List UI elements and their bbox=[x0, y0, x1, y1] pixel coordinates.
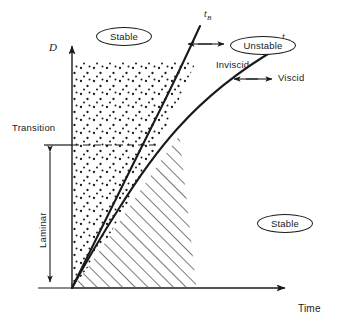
figure-root: D Time Transition Laminar Inviscid Visci… bbox=[0, 0, 339, 321]
inviscid-label: Inviscid bbox=[216, 60, 249, 70]
stable-badge-bottom-text: Stable bbox=[271, 218, 299, 229]
viscid-label: Viscid bbox=[278, 73, 304, 83]
transition-label: Transition bbox=[12, 123, 55, 133]
unstable-badge-text: Unstable bbox=[243, 40, 282, 51]
stable-badge-bottom: Stable bbox=[257, 214, 313, 233]
curve-tb-subscript: B bbox=[207, 14, 211, 22]
unstable-badge: Unstable bbox=[230, 36, 296, 55]
laminar-label: Laminar bbox=[38, 212, 48, 248]
stable-badge-top-text: Stable bbox=[110, 31, 138, 42]
stable-badge-top: Stable bbox=[96, 27, 152, 46]
curve-tb-label: tB bbox=[204, 9, 211, 22]
x-axis-label: Time bbox=[298, 304, 321, 314]
y-axis-label: D bbox=[49, 42, 57, 53]
